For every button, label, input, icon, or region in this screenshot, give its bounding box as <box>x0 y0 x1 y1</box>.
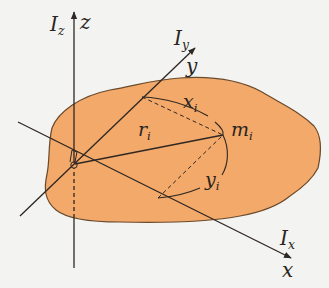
mass-label: mi <box>231 120 253 143</box>
radius-label: ri <box>138 120 151 143</box>
y-distance-label: yi <box>205 170 220 193</box>
y-axis-label: y <box>186 56 197 76</box>
moment-z-label: Iz <box>50 14 64 38</box>
x-distance-label: xi <box>183 92 197 115</box>
diagram-canvas: Iz z Iy y Ix x mi ri xi yi <box>0 0 329 288</box>
z-axis-label: z <box>80 12 91 32</box>
x-axis-label: x <box>282 260 293 280</box>
moment-x-label: Ix <box>280 228 295 252</box>
moment-y-label: Iy <box>174 28 189 52</box>
